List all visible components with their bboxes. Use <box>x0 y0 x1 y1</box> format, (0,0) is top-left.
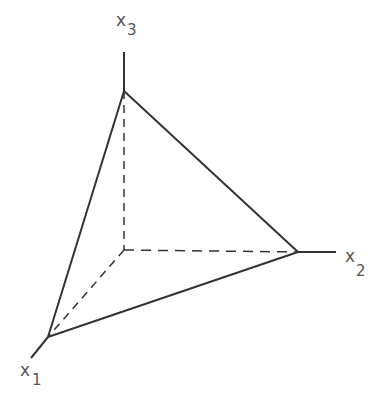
x3-subscript: 3 <box>127 21 137 39</box>
x1-axis-solid <box>31 337 48 358</box>
x1-label: x <box>20 360 30 380</box>
edge-x3-x1 <box>48 91 124 337</box>
edge-x3-x2 <box>124 91 298 252</box>
x3-label: x <box>116 10 126 30</box>
x2-subscript: 2 <box>356 262 366 280</box>
simplex-diagram: x 3 x 2 x 1 <box>0 0 381 410</box>
x1-subscript: 1 <box>32 371 42 389</box>
x2-label: x <box>345 246 355 266</box>
x2-axis-dashed <box>124 250 298 252</box>
